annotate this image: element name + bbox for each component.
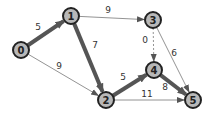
edge-weight-label: 6 [171, 48, 177, 58]
node-label: 5 [190, 95, 197, 106]
graph-canvas: 5997065118 012345 [0, 0, 212, 114]
node-0: 0 [13, 42, 29, 58]
edge-1-3 [79, 16, 144, 19]
edges-layer: 5997065118 [28, 5, 189, 100]
nodes-layer: 012345 [13, 8, 201, 108]
edge-weight-label: 8 [162, 82, 168, 92]
edge-weight-label: 5 [35, 22, 41, 32]
node-label: 4 [151, 65, 158, 76]
edge-weight-label: 9 [105, 5, 111, 15]
node-label: 1 [68, 11, 75, 22]
edge-0-1 [28, 21, 64, 45]
node-1: 1 [63, 8, 79, 24]
edge-weight-label: 9 [56, 61, 62, 71]
node-label: 2 [103, 95, 110, 106]
edge-weight-label: 5 [120, 72, 126, 82]
node-2: 2 [98, 92, 114, 108]
graph-diagram: 5997065118 012345 [0, 0, 212, 114]
node-5: 5 [185, 92, 201, 108]
node-label: 0 [18, 45, 25, 56]
edge-weight-label: 11 [141, 89, 152, 99]
node-4: 4 [146, 62, 162, 78]
node-label: 3 [150, 15, 157, 26]
node-3: 3 [145, 12, 161, 28]
edge-3-4 [153, 28, 154, 61]
edge-weight-label: 7 [92, 40, 98, 50]
edge-1-2 [74, 23, 102, 91]
edge-weight-label: 0 [142, 35, 148, 45]
